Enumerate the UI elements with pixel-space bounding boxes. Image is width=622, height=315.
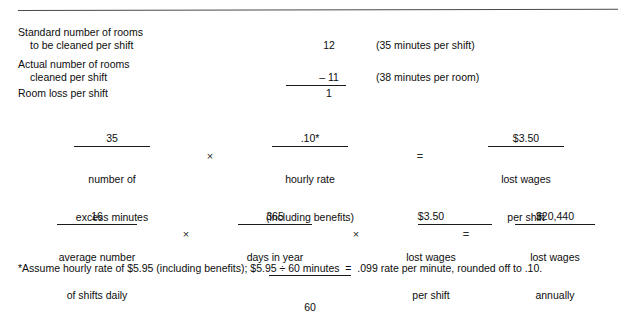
fraction-bar-lost-wages-annually (515, 224, 595, 225)
fraction-bar-days-in-year (238, 224, 312, 225)
term-hourly-rate-numerator: .10* (240, 132, 380, 146)
top-divider-rule (18, 9, 618, 11)
summary-value-standard: 12 (298, 39, 360, 52)
fraction-bar-hourly-rate (272, 146, 348, 147)
room-loss-summary-block: Standard number of rooms to be cleaned p… (18, 26, 608, 101)
footnote-hourly-rate-assumption: *Assume hourly rate of $5.95 (including … (18, 262, 542, 275)
term-lost-wages-per-shift-2-numerator: $3.50 (340, 210, 470, 224)
operator-multiply-2: × (172, 228, 200, 241)
term-average-shifts-daily-numerator: 16 (32, 210, 162, 224)
term-lost-wages-per-shift-2-denom-line2: per shift (392, 289, 470, 302)
summary-row-roomloss: Room loss per shift 1 (18, 87, 608, 101)
fraction-bar-lost-wages-per-shift (488, 146, 564, 147)
operator-equals-2: = (452, 228, 480, 241)
term-average-shifts-daily-denom-line2: of shifts daily (32, 289, 162, 302)
operator-multiply-1: × (196, 150, 224, 163)
term-days-in-year-numerator: 365 (210, 210, 340, 224)
fraction-bar-average-shifts-daily (57, 224, 137, 225)
summary-label-standard-line1: Standard number of rooms (18, 26, 608, 39)
summary-value-actual: – 11 (298, 71, 360, 84)
summary-value-roomloss: 1 (298, 87, 360, 100)
summary-note-standard: (35 minutes per shift) (376, 39, 475, 52)
term-lost-wages-annually-numerator: $20,440 (490, 210, 620, 224)
summary-note-actual: (38 minutes per room) (376, 71, 479, 84)
operator-equals-1: = (406, 150, 434, 163)
summary-label-actual-line1: Actual number of rooms (18, 58, 608, 71)
term-excess-minutes-denom-line1: number of (42, 173, 182, 186)
fraction-bar-excess-minutes (74, 146, 150, 147)
term-lost-wages-per-shift-numerator: $3.50 (456, 132, 596, 146)
subtraction-rule (286, 85, 346, 86)
summary-row-actual: Actual number of rooms cleaned per shift… (18, 58, 608, 85)
term-lost-wages-annually-denom-line2: annually (490, 289, 620, 302)
summary-row-standard: Standard number of rooms to be cleaned p… (18, 26, 608, 52)
term-excess-minutes-numerator: 35 (42, 132, 182, 146)
fraction-bar-lost-wages-per-shift-2 (418, 224, 492, 225)
term-lost-wages-per-shift-denom-line1: lost wages (456, 173, 596, 186)
term-hourly-rate-denom-line1: hourly rate (240, 173, 380, 186)
